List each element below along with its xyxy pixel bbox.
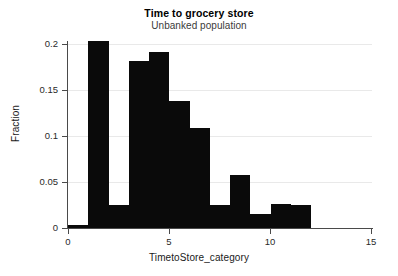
- y-tick-0.15: [62, 90, 67, 91]
- chart-subtitle: Unbanked population: [0, 20, 398, 32]
- chart-title-block: Time to grocery store Unbanked populatio…: [0, 7, 398, 32]
- x-tick-label-5: 5: [154, 236, 184, 247]
- y-tick-label-0.1: 0.1: [18, 130, 58, 141]
- histogram-bar: [109, 205, 129, 228]
- y-tick-0.05: [62, 182, 67, 183]
- x-tick-5: [169, 229, 170, 234]
- x-tick-0: [68, 229, 69, 234]
- histogram-bar: [210, 205, 230, 228]
- y-tick-label-0.05: 0.05: [18, 176, 58, 187]
- y-tick-label-0.2: 0.2: [18, 38, 58, 49]
- histogram-bar: [129, 61, 149, 228]
- y-tick-label-0: 0: [18, 222, 58, 233]
- x-tick-label-15: 15: [356, 236, 386, 247]
- histogram-bar: [169, 101, 189, 228]
- y-axis-line: [67, 41, 68, 229]
- histogram-bar: [250, 214, 270, 228]
- histogram-bar: [271, 204, 291, 228]
- y-tick-0: [62, 228, 67, 229]
- x-axis-title: TimetoStore_category: [0, 252, 398, 263]
- y-tick-label-0.15: 0.15: [18, 84, 58, 95]
- histogram-chart: Time to grocery store Unbanked populatio…: [0, 0, 398, 276]
- plot-area: [68, 40, 372, 228]
- histogram-bar: [230, 175, 250, 228]
- x-axis-line: [67, 228, 373, 229]
- y-tick-0.1: [62, 136, 67, 137]
- y-tick-0.2: [62, 44, 67, 45]
- x-tick-15: [371, 229, 372, 234]
- histogram-bar: [88, 41, 108, 228]
- histogram-bar: [149, 52, 169, 228]
- histogram-bar: [291, 205, 311, 228]
- x-tick-10: [270, 229, 271, 234]
- histogram-bar: [190, 128, 210, 228]
- x-tick-label-0: 0: [53, 236, 83, 247]
- y-axis-title: Fraction: [10, 64, 21, 184]
- chart-title: Time to grocery store: [0, 7, 398, 19]
- x-tick-label-10: 10: [255, 236, 285, 247]
- bars-layer: [68, 40, 372, 228]
